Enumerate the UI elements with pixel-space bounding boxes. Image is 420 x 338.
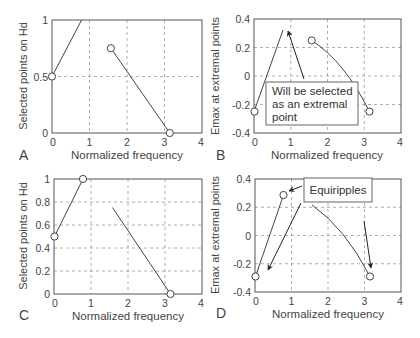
svg-text:0: 0: [252, 136, 258, 148]
x-axis-label: Normalized frequency: [272, 308, 384, 320]
svg-text:point: point: [272, 111, 298, 123]
svg-text:0: 0: [42, 127, 48, 139]
grid-lines: [54, 179, 202, 294]
y-axis-label: Selected points on Hd: [17, 182, 29, 290]
svg-text:0: 0: [253, 295, 259, 307]
svg-text:0.5: 0.5: [33, 71, 48, 83]
svg-text:4: 4: [397, 295, 403, 307]
svg-text:-0.4: -0.4: [233, 286, 251, 298]
svg-text:0: 0: [52, 297, 58, 309]
panel-label: B: [216, 147, 225, 163]
x-axis-label: Normalized frequency: [271, 149, 383, 161]
svg-text:0.4: 0.4: [236, 173, 251, 185]
svg-text:3: 3: [361, 136, 367, 148]
y-axis-label: Selected points on Hd: [17, 22, 29, 130]
svg-text:Equiripples: Equiripples: [310, 184, 367, 196]
annotation-box: Will be selected as an extremal point: [266, 82, 358, 125]
figure: 0 0.5 1 0 1 2 3 4 Normalized frequency S…: [0, 0, 420, 338]
svg-text:2: 2: [325, 295, 331, 307]
svg-text:0.8: 0.8: [35, 196, 50, 208]
panel-label: C: [19, 307, 29, 323]
svg-text:4: 4: [198, 297, 204, 309]
svg-text:4: 4: [198, 136, 204, 148]
data-markers: [51, 175, 174, 297]
svg-text:0.4: 0.4: [35, 242, 50, 254]
svg-text:0: 0: [44, 288, 50, 300]
svg-text:0: 0: [245, 230, 251, 242]
svg-text:1: 1: [42, 14, 48, 26]
y-ticks: 0 0.5 1: [33, 14, 48, 139]
y-ticks: -0.4 -0.2 0 0.2 0.4: [232, 13, 250, 139]
svg-text:1: 1: [87, 136, 93, 148]
svg-text:0.2: 0.2: [236, 201, 251, 213]
data-lines: [55, 179, 171, 294]
x-axis-label: Normalized frequency: [72, 310, 184, 322]
panel-b: Will be selected as an extremal point -0…: [209, 13, 403, 163]
svg-text:0.4: 0.4: [235, 13, 250, 25]
svg-text:1: 1: [288, 136, 294, 148]
x-ticks: 0 1 2 3 4: [50, 136, 204, 148]
svg-text:3: 3: [162, 136, 168, 148]
panel-d: Equiripples -0.4 -0.2 0 0.2 0.4 0 1 2 3 …: [209, 173, 403, 321]
svg-text:0.2: 0.2: [35, 265, 50, 277]
panel-a: 0 0.5 1 0 1 2 3 4 Normalized frequency S…: [17, 14, 204, 163]
y-axis-label: Emax at extremal points: [209, 17, 221, 135]
svg-text:3: 3: [162, 297, 168, 309]
y-axis-label: Emax at extremal points: [209, 176, 221, 294]
x-axis-label: Normalized frequency: [71, 149, 183, 161]
svg-text:0.2: 0.2: [235, 42, 250, 54]
svg-text:-0.2: -0.2: [232, 99, 250, 111]
panel-label: D: [216, 305, 226, 321]
svg-text:1: 1: [44, 173, 50, 185]
svg-text:1: 1: [88, 297, 94, 309]
svg-text:2: 2: [325, 136, 331, 148]
svg-text:Will be selected: Will be selected: [272, 85, 353, 97]
svg-text:0.6: 0.6: [35, 219, 50, 231]
svg-text:1: 1: [289, 295, 295, 307]
panel-c: 0 0.2 0.4 0.6 0.8 1 0 1 2 3 4 Normalized…: [17, 173, 204, 323]
svg-text:4: 4: [397, 136, 403, 148]
x-ticks: 0 1 2 3 4: [253, 295, 403, 307]
svg-text:-0.2: -0.2: [233, 258, 251, 270]
data-lines: [52, 20, 170, 133]
svg-text:2: 2: [124, 136, 130, 148]
svg-text:0: 0: [50, 136, 56, 148]
x-ticks: 0 1 2 3 4: [252, 136, 403, 148]
svg-text:0: 0: [244, 70, 250, 82]
grid-lines: [52, 20, 202, 133]
y-ticks: -0.4 -0.2 0 0.2 0.4: [233, 173, 251, 298]
x-ticks: 0 1 2 3 4: [52, 297, 204, 309]
svg-text:as an extremal: as an extremal: [272, 98, 347, 110]
svg-text:3: 3: [362, 295, 368, 307]
panel-label: A: [19, 147, 29, 163]
y-ticks: 0 0.2 0.4 0.6 0.8 1: [35, 173, 50, 300]
svg-text:-0.4: -0.4: [232, 127, 250, 139]
annotation-box: Equiripples: [304, 178, 372, 202]
data-markers: [48, 45, 173, 137]
data-markers: [252, 191, 374, 280]
svg-text:2: 2: [125, 297, 131, 309]
